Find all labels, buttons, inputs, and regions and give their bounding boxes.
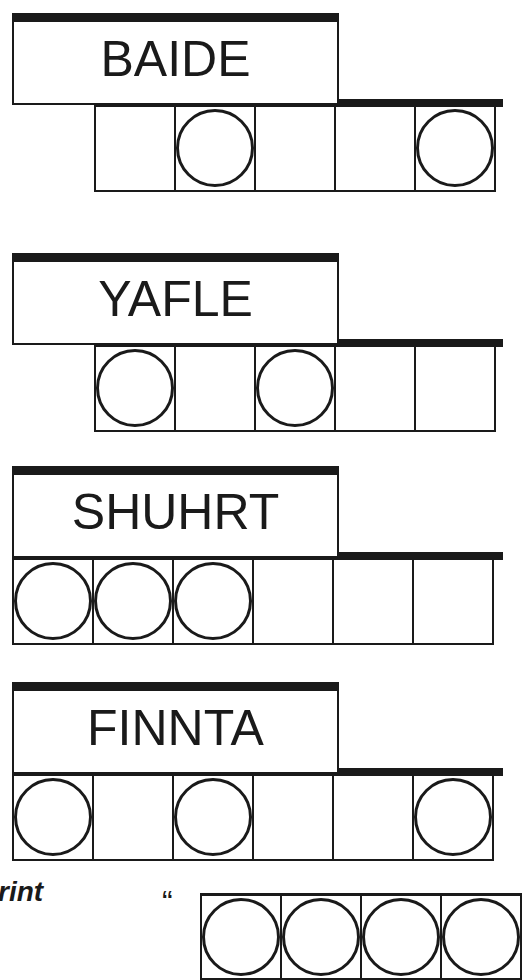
print-answer-label: rint [0,876,43,908]
jumble-puzzle-2: YAFLE [12,253,503,433]
circle-marker-icon [416,109,494,187]
answer-cell-circled[interactable] [360,893,442,980]
scrambled-word: SHUHRT [72,483,279,541]
circle-marker-icon [94,562,172,640]
scrambled-word-box: YAFLE [12,253,339,345]
scrambled-word-box: SHUHRT [12,466,339,558]
circle-marker-icon [176,109,254,187]
letter-cell[interactable] [334,105,416,192]
scrambled-word-box: BAIDE [12,13,339,105]
letter-cell-circled[interactable] [254,345,336,432]
letter-cell[interactable] [334,345,416,432]
scrambled-word-box: FINNTA [12,682,339,774]
scrambled-word: YAFLE [98,270,253,328]
letter-cell-circled[interactable] [414,105,496,192]
answer-cell-circled[interactable] [200,893,282,980]
circle-marker-icon [96,349,174,427]
final-answer-cells [200,893,522,980]
circle-marker-icon [202,898,280,976]
answer-cells [94,345,496,432]
circle-marker-icon [442,898,520,976]
letter-cell[interactable] [174,345,256,432]
circle-marker-icon [414,778,492,856]
letter-cell[interactable] [412,558,494,645]
open-quote: “ [162,884,173,921]
letter-cell[interactable] [94,105,176,192]
letter-cell[interactable] [252,558,334,645]
answer-cells [12,558,494,645]
answer-cells [94,105,496,192]
answer-cells [12,774,494,861]
letter-cell-circled[interactable] [174,105,256,192]
letter-cell-circled[interactable] [12,558,94,645]
letter-cell[interactable] [92,774,174,861]
scrambled-word: FINNTA [87,699,264,757]
circle-marker-icon [14,562,92,640]
letter-cell-circled[interactable] [172,558,254,645]
circle-marker-icon [174,562,252,640]
letter-cell[interactable] [254,105,336,192]
jumble-puzzle-3: SHUHRT [12,466,503,646]
jumble-puzzle-1: BAIDE [12,13,503,193]
letter-cell[interactable] [252,774,334,861]
circle-marker-icon [256,349,334,427]
circle-marker-icon [282,898,360,976]
circle-marker-icon [362,898,440,976]
letter-cell-circled[interactable] [412,774,494,861]
letter-cell-circled[interactable] [12,774,94,861]
scrambled-word: BAIDE [100,30,250,88]
circle-marker-icon [14,778,92,856]
letter-cell-circled[interactable] [172,774,254,861]
letter-cell[interactable] [332,558,414,645]
letter-cell[interactable] [332,774,414,861]
circle-marker-icon [174,778,252,856]
answer-cell-circled[interactable] [280,893,362,980]
letter-cell-circled[interactable] [92,558,174,645]
letter-cell-circled[interactable] [94,345,176,432]
letter-cell[interactable] [414,345,496,432]
jumble-puzzle-4: FINNTA [12,682,503,862]
answer-cell-circled[interactable] [440,893,522,980]
